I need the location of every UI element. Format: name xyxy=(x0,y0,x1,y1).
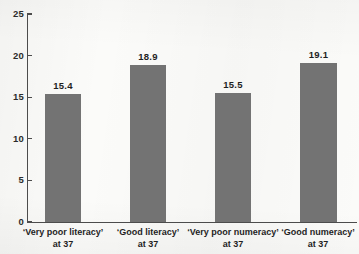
y-axis-tick xyxy=(27,180,32,181)
category-label-main: ‘Very poor literacy’ xyxy=(23,227,104,237)
bar-value-label: 19.1 xyxy=(286,49,351,60)
bar-value-label: 18.9 xyxy=(116,51,180,62)
y-axis-tick-label-text: 5 xyxy=(2,174,24,185)
y-axis-tick xyxy=(27,13,32,14)
y-axis-tick-label: 15 xyxy=(0,91,24,102)
bar-value-label: 15.4 xyxy=(31,80,95,91)
y-axis-tick-label: 5 xyxy=(0,174,24,185)
bar-value-label: 15.5 xyxy=(201,79,265,90)
bar xyxy=(215,93,251,222)
bar xyxy=(45,94,81,222)
bar xyxy=(300,63,337,222)
category-label-sub: at 37 xyxy=(266,239,359,251)
bar-chart: 0510152025 15.418.915.519.1 ‘Very poor l… xyxy=(0,0,359,254)
category-label-main: ‘Good literacy’ xyxy=(117,227,180,237)
x-axis-category-label: ‘Good numeracy’at 37 xyxy=(266,227,359,250)
x-axis-line xyxy=(27,222,357,223)
y-axis-tick xyxy=(27,55,32,56)
bar xyxy=(130,65,166,222)
y-axis-tick-label: 25 xyxy=(0,8,24,19)
y-axis-tick-label: 20 xyxy=(0,50,24,61)
y-axis-tick-label: 10 xyxy=(0,133,24,144)
y-axis-tick xyxy=(27,97,32,98)
y-axis-tick-label-text: 0 xyxy=(2,216,24,227)
y-axis-tick-label-text: 15 xyxy=(2,91,24,102)
y-axis-tick-label-text: 20 xyxy=(2,50,24,61)
cropped-title-text xyxy=(30,0,330,2)
y-axis-tick-label-text: 10 xyxy=(2,133,24,144)
y-axis-tick-label-text: 25 xyxy=(2,8,24,19)
category-label-main: ‘Good numeracy’ xyxy=(281,227,355,237)
y-axis-tick xyxy=(27,221,32,222)
y-axis-tick-label: 0 xyxy=(0,216,24,227)
y-axis-tick xyxy=(27,138,32,139)
y-axis-line xyxy=(27,14,28,223)
